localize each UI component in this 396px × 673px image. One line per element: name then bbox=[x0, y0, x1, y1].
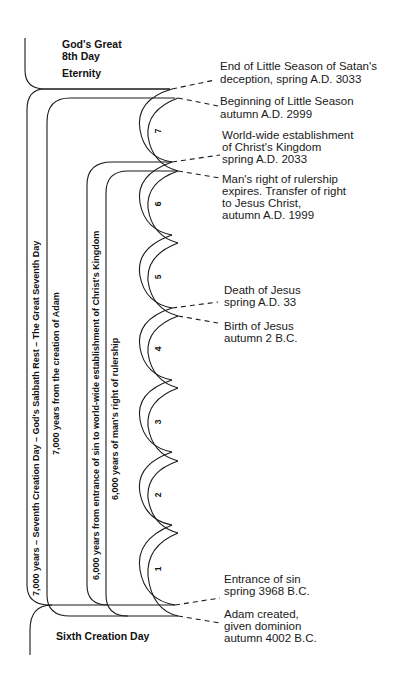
event-line: End of Little Season of Satan's bbox=[220, 60, 377, 73]
bracket-label-seventh-day: 7,000 years – Seventh Creation Day – God… bbox=[31, 241, 41, 596]
event-line: Adam created, bbox=[224, 608, 299, 621]
millennium-4: 4 bbox=[153, 347, 163, 352]
sixth-day-bracket bbox=[30, 605, 52, 655]
event-line: Beginning of Little Season bbox=[220, 95, 354, 108]
millennium-3: 3 bbox=[153, 420, 163, 425]
event-line: autumn A.D. 1999 bbox=[222, 209, 314, 222]
event-line: autumn A.D. 2999 bbox=[220, 108, 312, 121]
event-line: autumn 4002 B.C. bbox=[224, 632, 317, 645]
event-line: Entrance of sin bbox=[224, 573, 301, 586]
event-line: autumn 2 B.C. bbox=[224, 332, 298, 345]
bracket-label-from-adam: 7,000 years from the creation of Adam bbox=[51, 292, 61, 455]
millennium-1: 1 bbox=[153, 567, 163, 572]
bracket-label-rulership: 6,000 years of man's right of rulership bbox=[110, 338, 120, 500]
leader-lines bbox=[172, 80, 220, 623]
event-line: Death of Jesus bbox=[224, 284, 301, 297]
event-line: spring A.D. 33 bbox=[224, 296, 296, 309]
event-line: Birth of Jesus bbox=[224, 320, 294, 333]
eighth-day-title-line2: 8th Day bbox=[62, 50, 100, 62]
event-line: spring A.D. 2033 bbox=[222, 153, 307, 166]
event-line: given dominion bbox=[224, 620, 301, 633]
sixth-day-title: Sixth Creation Day bbox=[56, 630, 149, 642]
millennium-2: 2 bbox=[153, 493, 163, 498]
millennium-7: 7 bbox=[153, 129, 163, 134]
bracket-label-from-sin: 6,000 years from entrance of sin to worl… bbox=[91, 231, 101, 580]
event-line: World-wide establishment bbox=[222, 129, 353, 142]
event-line: deception, spring A.D. 3033 bbox=[220, 73, 361, 86]
event-line: spring 3968 B.C. bbox=[224, 585, 310, 598]
millennium-6: 6 bbox=[153, 202, 163, 207]
event-line: Man's right of rulership bbox=[222, 173, 338, 186]
millennium-5: 5 bbox=[153, 275, 163, 280]
millennium-arcs bbox=[139, 89, 178, 616]
event-line: of Christ's Kingdom bbox=[222, 141, 321, 154]
event-line: expires. Transfer of right bbox=[222, 185, 346, 198]
eternity-label: Eternity bbox=[62, 67, 101, 79]
eighth-day-title-line1: God's Great bbox=[62, 38, 122, 50]
event-line: to Jesus Christ, bbox=[222, 197, 301, 210]
